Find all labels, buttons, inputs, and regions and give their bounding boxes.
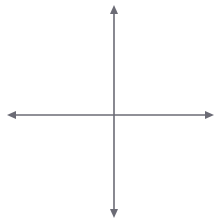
y-axis-arrow-down-icon: [110, 209, 118, 218]
x-axis-arrow-right-icon: [205, 111, 214, 119]
coordinate-plane-figure: [0, 0, 221, 222]
coordinate-plot-svg: [0, 0, 221, 222]
y-axis-arrow-up-icon: [110, 5, 118, 14]
x-axis-arrow-left-icon: [7, 111, 16, 119]
axis-lines: [7, 5, 214, 218]
